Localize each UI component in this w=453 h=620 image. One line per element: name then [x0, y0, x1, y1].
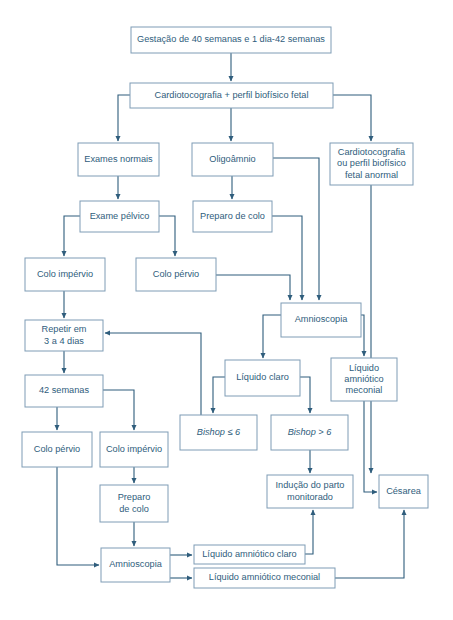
flow-node[interactable]: Repetir em3 a 4 dias [25, 320, 103, 351]
nodes-layer: Gestação de 40 semanas e 1 dia-42 semana… [22, 27, 428, 588]
flow-connector [335, 510, 404, 578]
flow-node[interactable]: Líquido amniótico meconial [194, 568, 335, 588]
flow-node[interactable]: Líquido claro [225, 360, 300, 396]
flow-node-label: Gestação de 40 semanas e 1 dia-42 semana… [137, 34, 325, 44]
flow-node-label: 3 a 4 dias [44, 336, 84, 346]
flow-node-label: Líquido amniótico meconial [209, 572, 320, 582]
flow-node[interactable]: Amnioscopia [281, 303, 361, 337]
flow-node[interactable]: Bishop ≤ 6 [180, 415, 257, 450]
flow-connector [305, 510, 313, 554]
flow-node-label: Líquido [349, 363, 379, 373]
flow-connector [103, 390, 134, 430]
flow-node-label: Bishop ≤ 6 [197, 427, 241, 437]
flow-node[interactable]: Colo pérvio [22, 432, 92, 467]
flow-node-label: de colo [119, 504, 149, 514]
flow-connector [57, 467, 99, 565]
flow-node-label: Líquido claro [236, 372, 289, 382]
flow-node[interactable]: 42 semanas [25, 375, 103, 407]
flow-node[interactable]: Líquidoamnióticomeconial [331, 358, 397, 401]
flow-node[interactable]: Colo pérvio [136, 258, 216, 291]
flowchart-canvas: Gestação de 40 semanas e 1 dia-42 semana… [0, 0, 453, 620]
flow-node[interactable]: Gestação de 40 semanas e 1 dia-42 semana… [131, 27, 331, 53]
flow-node[interactable]: Preparode colo [100, 485, 168, 522]
flow-node-label: Colo pérvio [34, 444, 80, 454]
flow-node[interactable]: Cardiotocografia + perfil biofísico feta… [130, 83, 333, 108]
flow-node-label: meconial [346, 385, 383, 395]
flow-node[interactable]: Líquido amniótico claro [194, 545, 305, 564]
flow-connector [273, 158, 319, 300]
flow-node-label: Cardiotocografia [338, 147, 406, 157]
flow-node-label: Exame pélvico [90, 211, 150, 221]
flow-node[interactable]: Oligoâmnio [192, 143, 273, 176]
flow-node-label: Líquido amniótico claro [202, 549, 296, 559]
flow-node-label: Bishop > 6 [288, 427, 333, 437]
flow-connector [216, 275, 290, 300]
flow-node-label: Césarea [386, 486, 422, 496]
flow-connector [159, 216, 175, 256]
flow-node-label: Amnioscopia [109, 559, 162, 569]
flow-node-label: Amnioscopia [295, 314, 348, 324]
flow-node-label: Preparo [118, 492, 151, 502]
flow-node-label: Preparo de colo [200, 211, 265, 221]
flow-node-label: Indução do parto [276, 480, 345, 490]
flow-connector [105, 333, 201, 415]
flow-node-label: Exames normais [84, 154, 153, 164]
flow-node-label: fetal anormal [345, 170, 398, 180]
flow-node-label: Colo pérvio [153, 269, 199, 279]
flow-connector [300, 377, 310, 413]
flow-connector [118, 95, 130, 141]
flow-node-label: Colo impérvio [106, 444, 162, 454]
flow-connector [263, 315, 281, 358]
flow-node-label: ou perfil biofísico [337, 158, 406, 168]
flow-node[interactable]: Preparo de colo [193, 201, 272, 232]
flow-node[interactable]: Amnioscopia [101, 548, 170, 582]
flowchart-svg: Gestação de 40 semanas e 1 dia-42 semana… [0, 0, 453, 620]
flow-node-label: Repetir em [42, 324, 87, 334]
flow-node[interactable]: Césarea [379, 475, 428, 508]
flow-connector [333, 95, 371, 141]
flow-node[interactable]: Bishop > 6 [271, 415, 348, 450]
flow-connector [272, 216, 302, 300]
flow-node[interactable]: Cardiotocografiaou perfil biofísicofetal… [330, 143, 413, 185]
flow-node[interactable]: Exame pélvico [80, 201, 159, 232]
flow-node-label: Cardiotocografia + perfil biofísico feta… [155, 90, 309, 100]
flow-node-label: amniótico [344, 374, 383, 384]
flow-node[interactable]: Indução do partomonitorado [267, 475, 353, 508]
flow-node[interactable]: Colo impérvio [100, 432, 168, 467]
flow-node[interactable]: Exames normais [78, 143, 159, 176]
flow-node-label: monitorado [287, 492, 333, 502]
flow-node[interactable]: Colo impérvio [25, 258, 105, 291]
flow-node-label: Colo impérvio [37, 269, 93, 279]
flow-connector [213, 377, 225, 413]
flow-node-label: 42 semanas [39, 385, 89, 395]
flow-node-label: Oligoâmnio [209, 154, 255, 164]
flow-connector [64, 216, 80, 256]
